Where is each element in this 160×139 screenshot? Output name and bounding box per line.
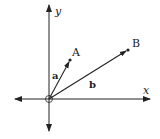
vector-b-label: b [89,79,96,90]
vector-diagram: y x A B a b [0,0,160,139]
y-axis-label: y [54,5,62,18]
vector-a-label: a [52,70,59,81]
x-axis-label: x [143,84,150,97]
point-b-label: B [132,37,140,50]
point-a-label: A [71,46,81,59]
vector-b [49,51,126,99]
point-b-dot [126,48,129,51]
